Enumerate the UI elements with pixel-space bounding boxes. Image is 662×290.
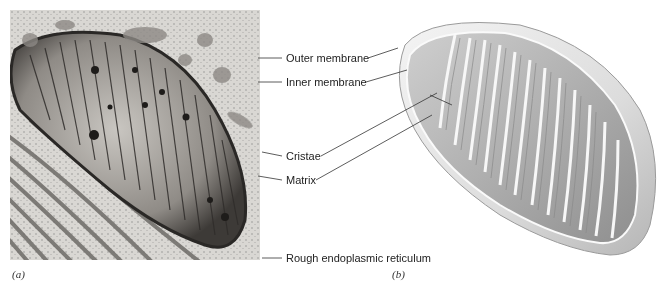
label-matrix: Matrix bbox=[286, 174, 316, 186]
panel-label-a: (a) bbox=[12, 268, 25, 280]
panel-label-b: (b) bbox=[392, 268, 405, 280]
label-rough-er: Rough endoplasmic reticulum bbox=[286, 252, 431, 264]
label-cristae: Cristae bbox=[286, 150, 321, 162]
label-outer-membrane: Outer membrane bbox=[286, 52, 369, 64]
label-inner-membrane: Inner membrane bbox=[286, 76, 367, 88]
illustration-panel-b bbox=[0, 0, 662, 290]
mitochondrion-illustration bbox=[399, 23, 655, 256]
